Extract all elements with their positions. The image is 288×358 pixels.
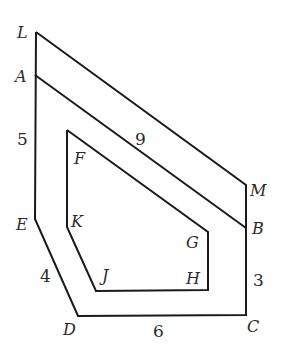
- inner-polygon: [67, 130, 208, 291]
- length-DC: 6: [153, 321, 164, 341]
- label-A: A: [13, 67, 27, 86]
- label-M: M: [249, 181, 267, 200]
- label-B: B: [251, 219, 264, 238]
- label-E: E: [15, 215, 28, 234]
- label-H: H: [185, 269, 201, 288]
- geometry-diagram: L A E D C B M F G H J K 5 9 4 6 3: [0, 0, 288, 358]
- length-AE: 5: [17, 129, 28, 149]
- label-K: K: [70, 212, 84, 231]
- label-L: L: [16, 23, 28, 42]
- length-AB: 9: [135, 129, 146, 149]
- label-F: F: [73, 149, 86, 168]
- label-C: C: [247, 317, 259, 336]
- length-BC: 3: [253, 270, 264, 290]
- label-G: G: [186, 233, 199, 252]
- label-J: J: [99, 266, 110, 285]
- label-D: D: [62, 320, 76, 339]
- length-ED: 4: [40, 266, 51, 286]
